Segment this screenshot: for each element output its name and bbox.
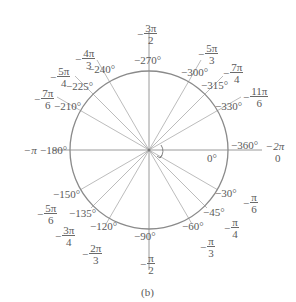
label-rad-neg-5pi-4: − 5π4 bbox=[50, 66, 70, 88]
label-deg-neg270: −270° bbox=[134, 55, 161, 66]
label-rad-neg-11pi-6: − 11π6 bbox=[243, 86, 268, 108]
label-deg-neg180: −180° bbox=[40, 145, 67, 156]
label-rad-neg-3pi-4: − 3π4 bbox=[55, 225, 75, 247]
label-deg-neg210: −210° bbox=[54, 101, 81, 112]
label-rad-neg-7pi-4: − 7π4 bbox=[223, 62, 243, 84]
label-rad-neg-2pi-3: − 2π3 bbox=[82, 243, 102, 265]
label-deg-neg60: −60° bbox=[182, 221, 204, 232]
label-deg-neg300: −300° bbox=[181, 67, 208, 78]
label-deg-neg150: −150° bbox=[53, 189, 80, 200]
label-deg-neg135: −135° bbox=[69, 208, 96, 219]
label-rad-neg-pi: − π bbox=[24, 144, 37, 156]
label-deg-neg360: −360° bbox=[231, 140, 258, 151]
label-deg-neg90: −90° bbox=[134, 231, 156, 242]
label-rad-neg-pi-2: − π2 bbox=[140, 253, 155, 275]
label-rad-neg-5pi-6: − 5π6 bbox=[37, 203, 57, 225]
label-rad-neg-7pi-6: − 7π6 bbox=[34, 88, 54, 110]
label-deg-neg330: −330° bbox=[215, 101, 242, 112]
label-deg-0: 0° bbox=[207, 153, 217, 164]
label-rad-neg-5pi-3: − 5π3 bbox=[198, 43, 218, 65]
label-rad-neg-4pi-3: − 4π3 bbox=[75, 48, 95, 70]
label-rad-neg-pi-6: − π6 bbox=[243, 192, 258, 214]
label-deg-neg30: −30° bbox=[215, 188, 237, 199]
label-rad-0: 0 bbox=[275, 153, 281, 164]
label-rad-neg-pi-4: − π4 bbox=[224, 217, 239, 239]
origin-point bbox=[148, 149, 151, 152]
label-rad-neg-3pi-2: − 3π2 bbox=[137, 23, 157, 45]
label-rad-neg-pi-3: − π3 bbox=[200, 236, 215, 258]
unit-circle-diagram: 0° −30° −45° −60° −90° −120° −135° −150°… bbox=[0, 0, 296, 302]
label-rad-neg-2pi: − 2π bbox=[266, 140, 284, 152]
label-deg-neg45: −45° bbox=[203, 207, 225, 218]
figure-caption: (b) bbox=[141, 286, 154, 298]
label-deg-neg120: −120° bbox=[90, 221, 117, 232]
